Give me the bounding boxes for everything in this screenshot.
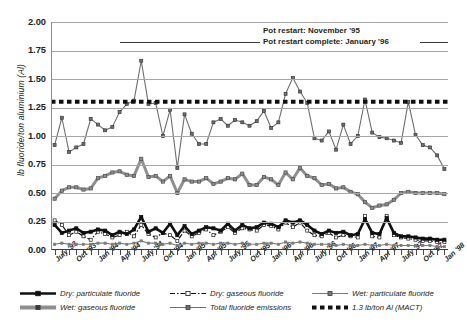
data-point — [96, 177, 99, 180]
data-point — [349, 234, 352, 237]
data-point — [162, 243, 164, 245]
data-point — [125, 232, 128, 235]
legend-item[interactable]: 1.3 lb/ton Al (MACT) — [312, 301, 422, 314]
data-point — [126, 243, 128, 245]
data-point — [118, 111, 121, 114]
data-point — [436, 238, 439, 241]
data-point — [327, 182, 330, 185]
data-point — [198, 242, 200, 244]
data-point — [154, 236, 157, 239]
data-point — [321, 243, 323, 245]
data-point — [191, 243, 193, 245]
data-point — [176, 234, 179, 237]
data-point — [349, 244, 351, 246]
data-point — [75, 230, 78, 233]
data-point — [75, 146, 78, 149]
gridline — [51, 51, 448, 52]
x-tick — [430, 250, 431, 255]
data-point — [291, 226, 294, 229]
data-point — [111, 171, 114, 174]
data-point — [183, 242, 185, 244]
data-point — [291, 178, 294, 181]
legend-item[interactable]: Wet: gaseous fluoride — [20, 301, 135, 314]
data-point — [212, 121, 215, 124]
legend-item[interactable]: Dry: gaseous fluoride — [170, 287, 284, 300]
x-tick — [444, 250, 445, 255]
data-point — [335, 236, 338, 239]
x-tick — [387, 250, 388, 255]
x-tick — [286, 250, 287, 255]
data-point — [75, 243, 77, 245]
x-tick — [379, 250, 380, 255]
data-point — [277, 243, 279, 245]
data-point — [169, 174, 172, 177]
x-tick — [112, 250, 113, 255]
data-point — [111, 125, 114, 128]
x-tick — [170, 250, 171, 255]
data-point — [104, 229, 107, 232]
data-point — [90, 243, 92, 245]
data-point — [233, 229, 236, 232]
x-tick — [185, 250, 186, 255]
data-point — [363, 214, 366, 217]
data-point — [147, 230, 150, 233]
data-point — [306, 229, 309, 232]
data-point — [104, 129, 107, 132]
data-point — [97, 242, 99, 244]
data-point — [241, 242, 243, 244]
data-point — [306, 242, 308, 244]
data-point — [277, 183, 280, 186]
legend-label: Total fluoride emissions — [210, 303, 291, 312]
data-point — [385, 203, 388, 206]
data-point — [428, 146, 431, 149]
legend-label: Dry: particulate fluoride — [60, 289, 140, 298]
legend-item[interactable]: Total fluoride emissions — [170, 301, 291, 314]
data-point — [284, 171, 287, 174]
data-point — [53, 223, 56, 226]
gridline — [51, 22, 448, 23]
data-point — [68, 234, 71, 237]
data-point — [407, 235, 410, 238]
data-point — [212, 243, 214, 245]
x-tick — [250, 250, 251, 255]
data-point — [335, 244, 337, 246]
data-point — [248, 227, 251, 230]
x-tick — [343, 250, 344, 255]
data-point — [197, 229, 200, 232]
x-tick — [206, 250, 207, 255]
data-point — [277, 226, 280, 229]
data-point — [190, 132, 193, 135]
data-point — [111, 243, 113, 245]
data-point — [320, 139, 323, 142]
x-tick — [235, 250, 236, 255]
data-point — [104, 242, 106, 244]
data-point — [104, 233, 107, 236]
data-point — [342, 186, 345, 189]
x-tick — [365, 250, 366, 255]
x-tick — [98, 250, 99, 255]
data-point — [161, 180, 164, 183]
data-point — [392, 198, 395, 201]
gridline — [51, 193, 448, 194]
x-tick — [199, 250, 200, 255]
x-tick — [394, 250, 395, 255]
x-tick — [76, 250, 77, 255]
data-point — [226, 222, 229, 225]
data-point — [68, 243, 70, 245]
data-point — [75, 227, 78, 230]
gridline — [51, 108, 448, 109]
x-tick — [213, 250, 214, 255]
data-point — [313, 229, 316, 232]
x-tick — [62, 250, 63, 255]
x-tick — [134, 250, 135, 255]
data-point — [118, 234, 121, 237]
data-point — [349, 142, 352, 145]
legend-item[interactable]: Dry: particulate fluoride — [20, 287, 140, 300]
data-point — [356, 236, 359, 239]
data-point — [67, 229, 70, 232]
legend-item[interactable]: Wet: particulate fluoride — [312, 287, 434, 300]
data-point — [270, 242, 272, 244]
data-point — [132, 174, 135, 177]
data-point — [399, 235, 402, 238]
